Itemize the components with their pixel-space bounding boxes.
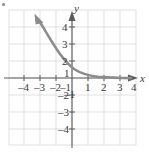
curve-arrowhead — [35, 14, 44, 25]
exponential-curve — [35, 14, 132, 79]
x-tick-label-4: 4 — [131, 82, 137, 93]
x-axis-label: x — [140, 73, 145, 84]
x-tick-label-3: 3 — [117, 82, 123, 93]
x-tick-label--3: –3 — [34, 82, 45, 93]
x-tick-label-2: 2 — [101, 82, 107, 93]
x-tick-label-1: 1 — [85, 82, 91, 93]
y-tick-label-1: 1 — [64, 68, 70, 79]
y-tick-label-3: 3 — [62, 39, 68, 50]
x-tick-label--4: –4 — [18, 82, 29, 93]
y-tick-label--3: –3 — [58, 107, 69, 118]
y-tick-label-4: 4 — [62, 22, 68, 33]
y-axis-label: y — [74, 3, 79, 14]
y-tick-label-2: 2 — [62, 56, 68, 67]
y-tick-label--2: –2 — [58, 90, 69, 101]
coordinate-plane-svg — [0, 0, 149, 155]
exponential-decay-graph-figure: –4 –3 –2 –1 1 2 3 4 4 3 2 1 –1 –2 –3 –4 … — [0, 0, 149, 155]
y-tick-label--4: –4 — [58, 124, 69, 135]
